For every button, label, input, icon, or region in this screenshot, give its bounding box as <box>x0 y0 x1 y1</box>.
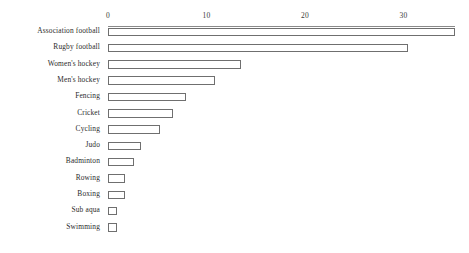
bar-row: Rugby football <box>0 42 469 58</box>
x-axis: 0102030 <box>0 0 469 26</box>
bar-category-label: Rugby football <box>53 42 100 52</box>
bar-category-label: Badminton <box>66 156 100 166</box>
x-axis-tick-0: 0 <box>106 11 110 20</box>
bar-category-label: Judo <box>85 140 100 150</box>
bar <box>108 60 241 69</box>
bar <box>108 44 408 53</box>
bar-category-label: Men's hockey <box>57 75 100 85</box>
bar-row: Swimming <box>0 222 469 238</box>
bar <box>108 93 186 102</box>
bar-category-label: Women's hockey <box>48 59 100 69</box>
bar <box>108 125 160 134</box>
bar-row: Badminton <box>0 156 469 172</box>
bar <box>108 223 117 232</box>
bar-row: Sub aqua <box>0 205 469 221</box>
bar-chart: 0102030 Association footballRugby footba… <box>0 0 469 253</box>
bar <box>108 207 117 216</box>
bar-category-label: Sub aqua <box>72 205 101 215</box>
bar-row: Cycling <box>0 124 469 140</box>
bar-row: Rowing <box>0 173 469 189</box>
bar-row: Fencing <box>0 91 469 107</box>
bar-category-label: Rowing <box>76 173 100 183</box>
bar-row: Women's hockey <box>0 59 469 75</box>
bar-category-label: Swimming <box>66 222 100 232</box>
bar <box>108 174 125 183</box>
bar <box>108 28 455 37</box>
bar-category-label: Cycling <box>76 124 100 134</box>
x-axis-tick-10: 10 <box>203 11 211 20</box>
bar-row: Judo <box>0 140 469 156</box>
bar <box>108 191 125 200</box>
bar-row: Association football <box>0 26 469 42</box>
plot-area: Association footballRugby footballWomen'… <box>0 26 469 241</box>
bar-row: Cricket <box>0 108 469 124</box>
bar-category-label: Fencing <box>75 91 100 101</box>
bar-row: Men's hockey <box>0 75 469 91</box>
bar <box>108 76 215 85</box>
bar <box>108 142 141 151</box>
bar-category-label: Association football <box>37 26 100 36</box>
bar <box>108 158 134 167</box>
bar-row: Boxing <box>0 189 469 205</box>
x-axis-tick-30: 30 <box>400 11 408 20</box>
bar <box>108 109 173 118</box>
bar-category-label: Boxing <box>77 189 100 199</box>
x-axis-tick-20: 20 <box>301 11 309 20</box>
bar-category-label: Cricket <box>77 108 100 118</box>
